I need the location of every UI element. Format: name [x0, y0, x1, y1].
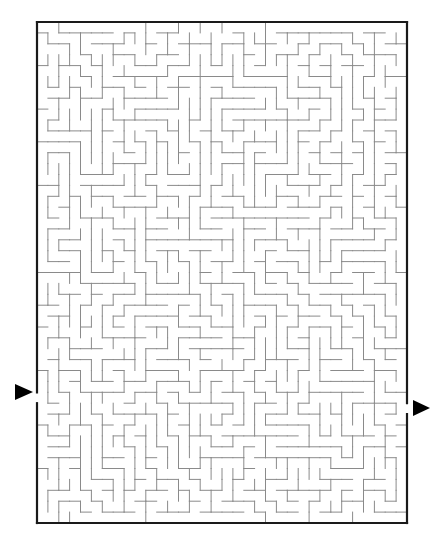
maze-walls: [37, 22, 407, 523]
entrance-arrow-icon: [15, 384, 33, 400]
exit-arrow-icon: [413, 400, 430, 416]
maze: [0, 0, 438, 546]
